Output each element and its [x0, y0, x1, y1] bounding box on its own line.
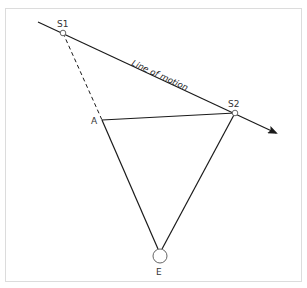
label-s2: S2 — [228, 99, 239, 109]
line-a-s2 — [102, 113, 235, 120]
point-s1-marker — [60, 30, 66, 36]
label-a: A — [91, 116, 98, 126]
dashed-line-s1-a — [63, 33, 102, 120]
label-line-of-motion: Line of motion — [130, 58, 190, 93]
label-s1: S1 — [57, 19, 68, 29]
point-s2-marker — [232, 110, 238, 116]
line-a-e — [102, 120, 158, 249]
line-s2-e — [162, 113, 235, 249]
point-e-marker — [153, 249, 167, 263]
label-e: E — [156, 267, 162, 277]
motion-diagram: S1 S2 A E Line of motion — [0, 0, 307, 288]
